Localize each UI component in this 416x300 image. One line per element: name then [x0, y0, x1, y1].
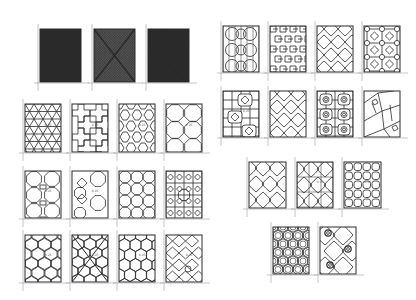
- svg-text:0.25: 0.25: [92, 189, 99, 193]
- lattice-pattern-drawing: [311, 86, 361, 146]
- pattern-panel-octagon-small: 0.25: [19, 166, 69, 227]
- lattice-pattern-drawing: 0.25: [66, 166, 116, 227]
- pattern-panel-elongated-hex: 0.25: [113, 99, 163, 161]
- lattice-pattern-drawing: [358, 86, 408, 146]
- lattice-pattern-drawing: [264, 86, 314, 146]
- svg-text:0.25: 0.25: [243, 109, 250, 113]
- pattern-panel-interlock-swirl: [264, 21, 314, 81]
- lattice-pattern-drawing: 0.25: [66, 99, 116, 161]
- lattice-pattern-drawing: [264, 21, 314, 81]
- lattice-pattern-drawing: 0.25: [66, 230, 116, 291]
- lattice-pattern-drawing: [142, 24, 197, 91]
- lattice-pattern-drawing: 0.25: [113, 230, 163, 291]
- pattern-panel-quatrefoil-grid: 0.25: [291, 157, 341, 217]
- svg-text:0.25: 0.25: [186, 123, 193, 127]
- pattern-panel-wavy-rings: [314, 222, 364, 283]
- pattern-panel-dense-gray-cross: [88, 24, 143, 91]
- pattern-panel-quatrefoil-diag: [264, 86, 314, 146]
- svg-text:0.25: 0.25: [139, 253, 146, 257]
- svg-text:0.25: 0.25: [45, 253, 52, 257]
- lattice-pattern-drawing: [160, 166, 210, 227]
- svg-text:0.25: 0.25: [139, 123, 146, 127]
- pattern-panel-hex-diagonal: 0.25: [66, 230, 116, 291]
- lattice-pattern-drawing: [34, 24, 89, 91]
- pattern-panel-hex-rings: [267, 222, 317, 283]
- pattern-panel-circle-cross: [217, 21, 267, 81]
- pattern-panel-grid-quatrefoil: 0.25: [217, 86, 267, 146]
- pattern-panel-triangles: 0.25: [19, 99, 69, 161]
- lattice-pattern-drawing: [311, 21, 361, 81]
- lattice-pattern-drawing: [88, 24, 143, 91]
- pattern-panel-hexagons: 0.25: [19, 230, 69, 291]
- lattice-pattern-drawing: 0.25: [160, 99, 210, 161]
- pattern-panel-octagon-diag: 0.25: [160, 230, 210, 291]
- svg-text:0.25: 0.25: [186, 253, 193, 257]
- pattern-panel-diamond-grid: [160, 166, 210, 227]
- lattice-pattern-drawing: 0.25: [217, 86, 267, 146]
- svg-text:0.25: 0.25: [45, 189, 52, 193]
- pattern-panel-wavy-squares: 0.25: [338, 157, 389, 217]
- svg-text:0.25: 0.25: [92, 253, 99, 257]
- lattice-pattern-drawing: 0.25: [338, 157, 389, 217]
- lattice-pattern-drawing: 0.25: [19, 166, 69, 227]
- lattice-pattern-drawing: 0.25: [160, 230, 210, 291]
- svg-text:0.25: 0.25: [92, 123, 99, 127]
- pattern-panel-wavy-quatrefoil: [243, 157, 294, 217]
- pattern-panel-node-grid: [358, 21, 408, 81]
- lattice-pattern-drawing: [314, 222, 364, 283]
- lattice-pattern-drawing: 0.25: [19, 99, 69, 161]
- svg-text:0.25: 0.25: [45, 123, 52, 127]
- pattern-panel-octagon-cross: 0.25: [66, 166, 116, 227]
- svg-text:0.25: 0.25: [364, 180, 371, 184]
- pattern-panel-octagon-grid: [113, 166, 163, 227]
- pattern-panel-cracked-ice: [358, 86, 408, 146]
- lattice-pattern-drawing: [217, 21, 267, 81]
- lattice-pattern-drawing: 0.25: [19, 230, 69, 291]
- lattice-pattern-drawing: [243, 157, 294, 217]
- pattern-panel-dense-dark: [142, 24, 197, 91]
- pattern-panel-crosses: 0.25: [66, 99, 116, 161]
- pattern-panel-octagon-square: 0.25: [160, 99, 210, 161]
- lattice-pattern-drawing: [113, 166, 163, 227]
- pattern-panel-dense-dark: [34, 24, 89, 91]
- pattern-panel-grid-rings: [311, 86, 361, 146]
- lattice-pattern-drawing: 0.25: [291, 157, 341, 217]
- lattice-pattern-drawing: [267, 222, 317, 283]
- pattern-panel-quatrefoil-diag: [311, 21, 361, 81]
- lattice-pattern-drawing: 0.25: [113, 99, 163, 161]
- lattice-pattern-drawing: [358, 21, 408, 81]
- svg-text:0.25: 0.25: [317, 180, 324, 184]
- pattern-panel-hexagons-tall: 0.25: [113, 230, 163, 291]
